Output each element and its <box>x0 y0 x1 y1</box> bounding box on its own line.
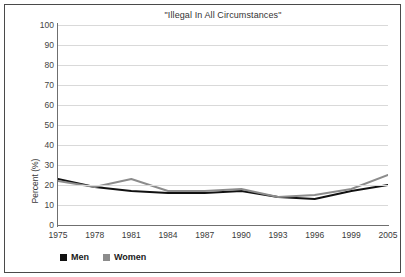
gridline <box>58 185 388 186</box>
x-tick-label: 1993 <box>269 230 288 240</box>
gridline <box>58 105 388 106</box>
legend-item-men: Men <box>60 252 89 262</box>
x-axis-tick-labels: 1975197819811984198719901993199619992005 <box>58 230 388 246</box>
chart-title: "Illegal In All Circumstances" <box>58 10 388 20</box>
x-tick-label: 1978 <box>85 230 104 240</box>
gridline <box>58 85 388 86</box>
x-tick-label: 2005 <box>379 230 398 240</box>
x-tick-label: 1987 <box>195 230 214 240</box>
gridline <box>58 165 388 166</box>
gridline <box>58 45 388 46</box>
gridline <box>58 25 388 26</box>
gridline <box>58 205 388 206</box>
y-axis-label: Percent (%) <box>30 136 40 226</box>
gridline <box>58 125 388 126</box>
gridline <box>58 65 388 66</box>
legend-item-women: Women <box>103 252 146 262</box>
gridline <box>58 145 388 146</box>
legend-label: Men <box>71 252 89 262</box>
x-tick-label: 1990 <box>232 230 251 240</box>
plot-area <box>58 25 388 225</box>
x-tick-label: 1981 <box>122 230 141 240</box>
y-tick-label: 100 <box>10 20 54 30</box>
x-tick-label: 1996 <box>305 230 324 240</box>
chart-legend: MenWomen <box>60 252 146 262</box>
x-tick-label: 1984 <box>159 230 178 240</box>
x-tick-label: 1999 <box>342 230 361 240</box>
series-line-men <box>58 179 388 199</box>
x-tick-label: 1975 <box>49 230 68 240</box>
chart-figure: "Illegal In All Circumstances" 010203040… <box>0 0 405 277</box>
y-axis-label-holder: Percent (%) <box>14 76 26 176</box>
legend-label: Women <box>114 252 146 262</box>
legend-swatch-icon <box>60 254 67 261</box>
legend-swatch-icon <box>103 254 110 261</box>
x-axis-line <box>57 225 389 226</box>
y-tick-label: 90 <box>10 40 54 50</box>
y-tick-label: 80 <box>10 60 54 70</box>
y-axis-tick-labels: 0102030405060708090100 <box>4 0 54 277</box>
